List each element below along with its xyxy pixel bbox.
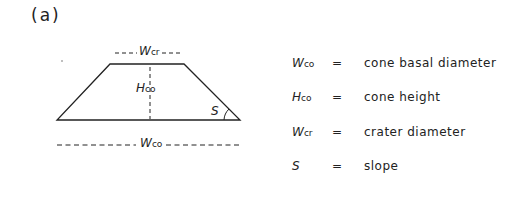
crater-width-label: Wcr bbox=[139, 44, 160, 58]
slope-angle-arc bbox=[224, 109, 229, 120]
speck bbox=[61, 60, 63, 62]
basal-width-label: Wco bbox=[140, 136, 162, 150]
cone-diagram bbox=[0, 0, 529, 207]
slope-label: S bbox=[211, 104, 219, 118]
cone-height-label: Hco bbox=[136, 81, 156, 95]
